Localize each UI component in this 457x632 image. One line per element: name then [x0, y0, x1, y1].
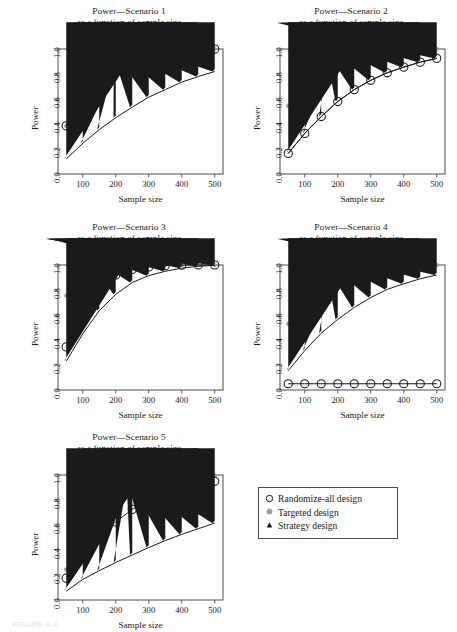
y-tick-label: 0.0: [52, 388, 62, 399]
y-tick-label: 0.8: [274, 288, 284, 299]
x-tick-label: 100: [69, 179, 97, 189]
plot-area-scenario-4: [240, 238, 455, 398]
x-tick-label: 300: [357, 395, 385, 405]
chart-panel-scenario-4: Power—Scenario 4as a function of sample …: [240, 238, 457, 433]
panel-title-line1: Power—Scenario 2: [240, 6, 457, 17]
y-tick-label: 0.4: [274, 338, 284, 349]
x-tick-label: 400: [168, 605, 196, 615]
x-tick-label: 500: [201, 395, 229, 405]
plot-area-scenario-5: [18, 448, 233, 608]
y-tick-label: 0.4: [52, 338, 62, 349]
y-tick-label: 0.6: [274, 313, 284, 324]
legend-item-targeted: Targeted design: [264, 506, 390, 520]
chart-legend: Randomize-all design Targeted design Str…: [258, 487, 398, 539]
y-tick-label: 0.0: [52, 598, 62, 609]
x-tick-label: 200: [102, 179, 130, 189]
y-tick-label: 1.0: [274, 47, 284, 58]
y-tick-label: 0.2: [274, 363, 284, 374]
y-tick-label: 0.2: [52, 573, 62, 584]
x-tick-label: 400: [168, 395, 196, 405]
y-tick-label: 0.4: [52, 548, 62, 559]
y-tick-label: 0.6: [52, 523, 62, 534]
legend-label-randomize-all: Randomize-all design: [278, 493, 362, 504]
x-tick-label: 200: [324, 179, 352, 189]
y-tick-label: 0.0: [274, 388, 284, 399]
y-tick-label: 0.8: [52, 72, 62, 83]
y-tick-label: 1.0: [52, 473, 62, 484]
y-tick-label: 0.8: [52, 288, 62, 299]
x-tick-label: 100: [69, 395, 97, 405]
y-tick-label: 0.2: [274, 147, 284, 158]
x-tick-label: 400: [390, 179, 418, 189]
legend-label-targeted: Targeted design: [278, 507, 339, 518]
plot-area-scenario-2: [240, 22, 455, 182]
y-tick-label: 0.4: [52, 122, 62, 133]
x-tick-label: 400: [168, 179, 196, 189]
x-tick-label: 300: [135, 395, 163, 405]
x-tick-label: 300: [357, 179, 385, 189]
plot-area-scenario-1: [18, 22, 233, 182]
x-tick-label: 400: [390, 395, 418, 405]
x-tick-label: 100: [69, 605, 97, 615]
chart-panel-scenario-2: Power—Scenario 2as a function of sample …: [240, 22, 457, 217]
y-tick-label: 0.6: [52, 313, 62, 324]
x-tick-label: 200: [324, 395, 352, 405]
x-tick-label: 500: [423, 179, 451, 189]
y-axis-label: Power: [30, 322, 40, 345]
legend-label-strategy: Strategy design: [278, 520, 337, 531]
x-axis-label: Sample size: [58, 620, 223, 630]
y-tick-label: 0.6: [52, 97, 62, 108]
x-tick-label: 500: [201, 179, 229, 189]
x-tick-label: 500: [423, 395, 451, 405]
y-tick-label: 0.8: [52, 498, 62, 509]
y-tick-label: 1.0: [52, 47, 62, 58]
y-tick-label: 0.0: [52, 172, 62, 183]
y-tick-label: 0.4: [274, 122, 284, 133]
x-tick-label: 500: [201, 605, 229, 615]
figure-caption: FIGURE 9.4: [12, 620, 58, 629]
chart-panel-scenario-3: Power—Scenario 3as a function of sample …: [18, 238, 240, 433]
x-tick-label: 200: [102, 605, 130, 615]
x-tick-label: 100: [291, 395, 319, 405]
y-tick-label: 0.2: [52, 363, 62, 374]
panel-title-line1: Power—Scenario 1: [18, 6, 240, 17]
y-tick-label: 0.0: [274, 172, 284, 183]
panel-title-line1: Power—Scenario 3: [18, 222, 240, 233]
chart-panel-scenario-5: Power—Scenario 5as a function of sample …: [18, 448, 240, 632]
legend-item-randomize-all: Randomize-all design: [264, 492, 390, 506]
filled-triangle-icon: [264, 517, 275, 535]
y-tick-label: 0.6: [274, 97, 284, 108]
x-axis-label: Sample size: [58, 410, 223, 420]
x-tick-label: 200: [102, 395, 130, 405]
y-tick-label: 0.2: [52, 147, 62, 158]
y-tick-label: 0.8: [274, 72, 284, 83]
chart-panel-scenario-1: Power—Scenario 1as a function of sample …: [18, 22, 240, 217]
x-axis-label: Sample size: [280, 410, 445, 420]
y-tick-label: 1.0: [274, 263, 284, 274]
y-axis-label: Power: [30, 532, 40, 555]
x-axis-label: Sample size: [280, 194, 445, 204]
y-axis-label: Power: [30, 106, 40, 129]
x-tick-label: 100: [291, 179, 319, 189]
legend-item-strategy: Strategy design: [264, 519, 390, 533]
x-axis-label: Sample size: [58, 194, 223, 204]
x-tick-label: 300: [135, 179, 163, 189]
y-axis-label: Power: [252, 322, 262, 345]
panel-title-line1: Power—Scenario 5: [18, 432, 240, 443]
x-tick-label: 300: [135, 605, 163, 615]
panel-title-line1: Power—Scenario 4: [240, 222, 457, 233]
plot-area-scenario-3: [18, 238, 233, 398]
y-tick-label: 1.0: [52, 263, 62, 274]
y-axis-label: Power: [252, 106, 262, 129]
